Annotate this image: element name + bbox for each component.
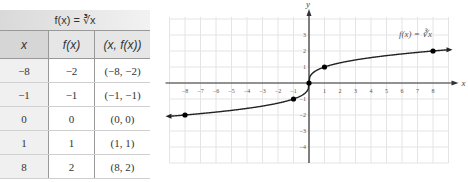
x-tick-label: −7: [197, 88, 203, 94]
x-tick-label: −4: [244, 88, 250, 94]
x-tick-label: 8: [432, 88, 435, 94]
x-tick-label: −2: [275, 88, 281, 94]
y-axis-label: y: [305, 0, 310, 9]
x-tick-label: −8: [182, 88, 188, 94]
y-tick-label: −3: [300, 128, 306, 134]
data-point: [322, 64, 327, 69]
x-tick-label: −1: [290, 88, 296, 94]
data-point: [291, 96, 296, 101]
function-label: f(x) = ∛x: [399, 28, 432, 39]
y-tick-label: 3: [303, 32, 306, 38]
y-tick-label: −2: [300, 112, 306, 118]
y-tick-label: −4: [300, 144, 306, 150]
y-axis-arrow-icon: [307, 9, 312, 16]
data-point: [182, 112, 187, 117]
y-tick-label: 1: [303, 64, 306, 70]
x-axis-arrow-icon: [452, 81, 459, 86]
x-tick-label: −5: [228, 88, 234, 94]
cube-root-graph: xy−8−7−6−5−4−3−2−112345678−4−3−2−1123f(x…: [0, 0, 468, 182]
x-tick-label: 7: [416, 88, 419, 94]
x-tick-label: 6: [401, 88, 404, 94]
curve-arrow-right-icon: [447, 47, 453, 52]
x-tick-label: 2: [339, 88, 342, 94]
x-tick-label: 4: [370, 88, 373, 94]
x-tick-label: 1: [323, 88, 326, 94]
x-tick-label: 3: [354, 88, 357, 94]
x-axis-label: x: [461, 78, 466, 88]
y-tick-label: 2: [303, 48, 306, 54]
x-tick-label: −6: [213, 88, 219, 94]
x-tick-label: −3: [259, 88, 265, 94]
data-point: [306, 80, 311, 85]
y-tick-label: −1: [300, 96, 306, 102]
curve-arrow-left-icon: [166, 114, 172, 119]
data-point: [430, 48, 435, 53]
x-tick-label: 5: [385, 88, 388, 94]
